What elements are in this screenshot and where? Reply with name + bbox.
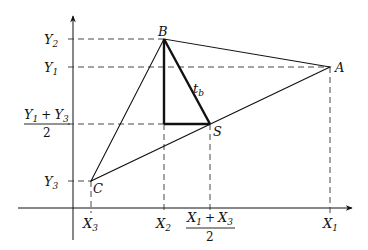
median-label: tb <box>193 81 204 98</box>
y-fraction-numerator: Y1+Y3 <box>24 107 69 124</box>
x-label-x2: X2 <box>155 216 171 233</box>
median-tb <box>164 39 210 124</box>
y-label-midpoint-fraction: Y1+Y3 2 <box>24 107 70 140</box>
point-label-s: S <box>213 124 222 139</box>
y-label-y2: Y2 <box>44 32 59 49</box>
y-fraction-denominator: 2 <box>43 126 51 140</box>
x-label-x3: X3 <box>82 216 98 233</box>
y-label-y1: Y1 <box>44 60 58 77</box>
x-label-x1: X1 <box>322 216 338 233</box>
median-triangle <box>164 39 210 124</box>
triangle-median-diagram: B A C S tb Y2 Y1 Y3 Y1+Y3 2 X3 X2 X1 X1+… <box>0 0 368 250</box>
triangle-abc <box>91 39 330 181</box>
x-label-midpoint-fraction: X1+X3 2 <box>186 210 235 244</box>
x-fraction-numerator: X1+X3 <box>186 210 233 227</box>
y-label-y3: Y3 <box>44 174 59 191</box>
x-fraction-denominator: 2 <box>206 230 214 244</box>
point-label-a: A <box>334 60 344 75</box>
point-label-c: C <box>93 181 103 196</box>
vertical-guides <box>91 67 330 213</box>
point-label-b: B <box>157 24 168 39</box>
